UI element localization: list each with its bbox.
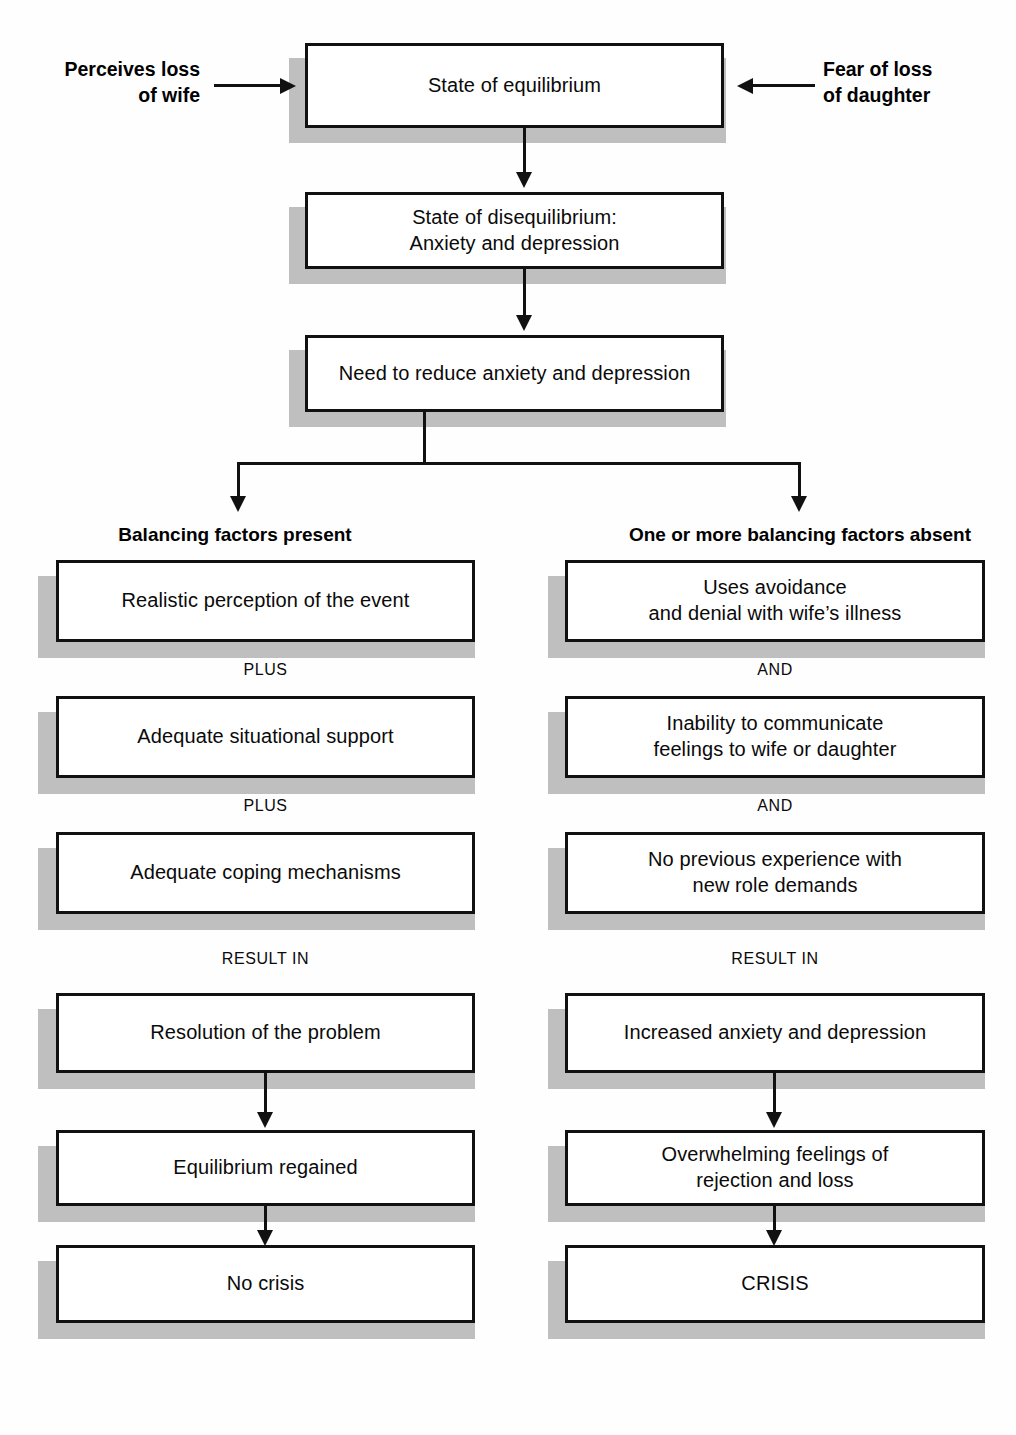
- node-label: Equilibrium regained: [163, 1155, 367, 1181]
- right-node-2: Inability to communicate feelings to wif…: [565, 696, 985, 778]
- node-label: State of equilibrium: [418, 73, 611, 99]
- left-connector-3: RESULT IN: [56, 950, 475, 968]
- left-node-6: No crisis: [56, 1245, 475, 1323]
- node-label-line-1: State of disequilibrium:: [412, 206, 617, 228]
- right-connector-3: RESULT IN: [565, 950, 985, 968]
- column-header-left: Balancing factors present: [90, 524, 380, 546]
- left-node-3: Adequate coping mechanisms: [56, 832, 475, 914]
- input-left-arrow-line: [214, 84, 282, 87]
- node-label: Inability to communicate feelings to wif…: [644, 711, 907, 762]
- right-node-3: No previous experience with new role dem…: [565, 832, 985, 914]
- connector-equilibrium-to-disequilibrium: [523, 128, 526, 178]
- left-connector-1: PLUS: [56, 661, 475, 679]
- fork-stem-line: [423, 412, 426, 464]
- node-label: Adequate coping mechanisms: [120, 860, 411, 886]
- fork-left-arrowhead-icon: [230, 496, 246, 512]
- right-connector-2: AND: [565, 797, 985, 815]
- node-label-line-2: feelings to wife or daughter: [654, 738, 897, 760]
- caption-line-1: Fear of loss: [823, 57, 1003, 83]
- arrowhead-down-icon: [257, 1230, 273, 1246]
- left-node-5: Equilibrium regained: [56, 1130, 475, 1206]
- right-node-1: Uses avoidance and denial with wife’s il…: [565, 560, 985, 642]
- caption-fear-of-loss-of-daughter: Fear of loss of daughter: [823, 57, 1003, 108]
- fork-right-arrowhead-icon: [791, 496, 807, 512]
- left-node-4: Resolution of the problem: [56, 993, 475, 1073]
- right-connector-1: AND: [565, 661, 985, 679]
- arrowhead-down-icon: [516, 172, 532, 188]
- node-state-of-disequilibrium: State of disequilibrium: Anxiety and dep…: [305, 192, 724, 269]
- node-label-line-1: Uses avoidance: [703, 576, 847, 598]
- right-node-6: CRISIS: [565, 1245, 985, 1323]
- arrowhead-down-icon: [766, 1112, 782, 1128]
- node-label: Increased anxiety and depression: [614, 1020, 936, 1046]
- node-label: Uses avoidance and denial with wife’s il…: [639, 575, 912, 626]
- caption-line-2: of daughter: [823, 83, 1003, 109]
- node-label: Adequate situational support: [127, 724, 403, 750]
- arrowhead-down-icon: [257, 1112, 273, 1128]
- node-label: Need to reduce anxiety and depression: [329, 361, 701, 387]
- node-need-to-reduce-anxiety: Need to reduce anxiety and depression: [305, 335, 724, 412]
- arrowhead-down-icon: [766, 1230, 782, 1246]
- fork-horizontal-line: [237, 462, 801, 465]
- node-label: CRISIS: [731, 1271, 818, 1297]
- column-header-right: One or more balancing factors absent: [595, 524, 1005, 546]
- flowchart-canvas: State of equilibrium Perceives loss of w…: [0, 0, 1016, 1435]
- left-node-2: Adequate situational support: [56, 696, 475, 778]
- node-label: State of disequilibrium: Anxiety and dep…: [399, 205, 629, 256]
- node-state-of-equilibrium: State of equilibrium: [305, 43, 724, 128]
- node-label-line-1: Overwhelming feelings of: [662, 1143, 889, 1165]
- connector-disequilibrium-to-need: [523, 269, 526, 321]
- caption-perceives-loss-of-wife: Perceives loss of wife: [50, 57, 200, 108]
- left-connector-line-4-to-5: [264, 1073, 267, 1117]
- node-label: No previous experience with new role dem…: [638, 847, 912, 898]
- node-label: Realistic perception of the event: [112, 588, 420, 614]
- node-label-line-2: rejection and loss: [696, 1169, 853, 1191]
- right-node-4: Increased anxiety and depression: [565, 993, 985, 1073]
- node-label: Resolution of the problem: [140, 1020, 390, 1046]
- left-node-1: Realistic perception of the event: [56, 560, 475, 642]
- node-label: Overwhelming feelings of rejection and l…: [652, 1142, 899, 1193]
- node-label-line-1: Inability to communicate: [667, 712, 884, 734]
- input-left-arrowhead-icon: [280, 78, 296, 94]
- node-label-line-2: new role demands: [692, 874, 857, 896]
- input-right-arrowhead-icon: [737, 78, 753, 94]
- arrowhead-down-icon: [516, 315, 532, 331]
- right-node-5: Overwhelming feelings of rejection and l…: [565, 1130, 985, 1206]
- node-label-line-1: No previous experience with: [648, 848, 902, 870]
- right-connector-line-4-to-5: [773, 1073, 776, 1117]
- node-label: No crisis: [217, 1271, 315, 1297]
- caption-line-1: Perceives loss: [50, 57, 200, 83]
- caption-line-2: of wife: [50, 83, 200, 109]
- left-connector-2: PLUS: [56, 797, 475, 815]
- node-label-line-2: Anxiety and depression: [409, 232, 619, 254]
- input-right-arrow-line: [753, 84, 815, 87]
- node-label-line-2: and denial with wife’s illness: [649, 602, 902, 624]
